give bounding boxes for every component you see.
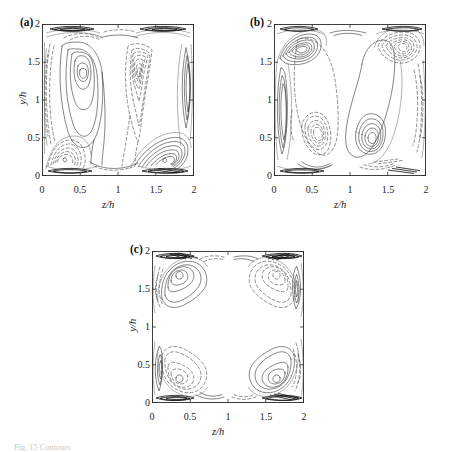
panel-b-y-tick-0p5: 0.5 — [254, 133, 272, 143]
panel-c-y-tick-1: 1 — [132, 322, 150, 332]
panel-c-x-tick-1p5: 1.5 — [258, 412, 274, 422]
panel-b-x-tick-0: 0 — [266, 185, 282, 195]
panel-a-x-axis-title: z/h — [102, 200, 114, 211]
panel-b-x-tick-0p5: 0.5 — [304, 185, 320, 195]
panel-c-x-tick-0p5: 0.5 — [182, 412, 198, 422]
panel-b-y-tick-1: 1 — [254, 95, 272, 105]
panel-c-y-tick-0: 0 — [132, 398, 150, 408]
panel-a-x-tick-2: 2 — [186, 185, 202, 195]
figure-root: (a) y/h 2 1.5 1 0.5 0 0 0.5 1 1.5 2 z/h — [0, 0, 455, 452]
panel-b-y-tick-0: 0 — [254, 171, 272, 181]
panel-b-y-tick-1p5: 1.5 — [254, 57, 272, 67]
panel-a-x-tick-0: 0 — [34, 185, 50, 195]
figure-caption: Fig. 15 Contours — [14, 444, 71, 451]
panel-a-x-tick-0p5: 0.5 — [72, 185, 88, 195]
panel-c-y-tick-2: 2 — [132, 246, 150, 256]
panel-a: (a) y/h 2 1.5 1 0.5 0 0 0.5 1 1.5 2 z/h — [0, 0, 225, 215]
panel-b-plot — [274, 24, 426, 176]
panel-a-x-tick-1p5: 1.5 — [148, 185, 164, 195]
panel-a-y-tick-0p5: 0.5 — [22, 133, 40, 143]
panel-a-y-tick-2: 2 — [22, 19, 40, 29]
panel-c-x-tick-2: 2 — [296, 412, 312, 422]
panel-b-x-tick-2: 2 — [418, 185, 434, 195]
panel-a-y-tick-1p5: 1.5 — [22, 57, 40, 67]
panel-c-y-tick-0p5: 0.5 — [132, 360, 150, 370]
panel-b-x-tick-1: 1 — [342, 185, 358, 195]
panel-a-plot — [42, 24, 194, 176]
panel-c: (c) y/h 2 1.5 1 0.5 0 0 0.5 1 1.5 2 z/h — [114, 228, 344, 452]
panel-b-x-axis-title: z/h — [334, 200, 346, 211]
panel-c-y-tick-1p5: 1.5 — [132, 284, 150, 294]
panel-b: (b) 2 1.5 1 0.5 0 0 0.5 1 1.5 2 z/h — [228, 0, 455, 215]
panel-b-y-tick-2: 2 — [254, 19, 272, 29]
panel-a-y-tick-0: 0 — [22, 171, 40, 181]
panel-c-x-tick-1: 1 — [220, 412, 236, 422]
panel-c-plot — [152, 251, 304, 403]
panel-c-x-axis-title: z/h — [212, 427, 224, 438]
panel-c-x-tick-0: 0 — [144, 412, 160, 422]
panel-a-y-tick-1: 1 — [22, 95, 40, 105]
panel-b-x-tick-1p5: 1.5 — [380, 185, 396, 195]
panel-a-x-tick-1: 1 — [110, 185, 126, 195]
